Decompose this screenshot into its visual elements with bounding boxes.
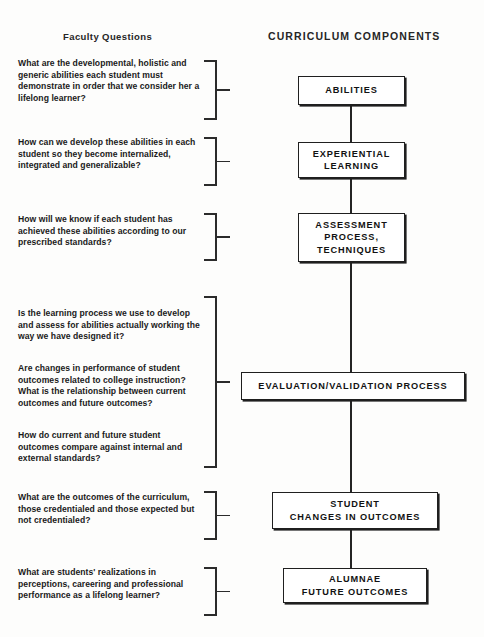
question-text: What are students' realizations in perce… bbox=[18, 567, 200, 602]
bracket-alumnae bbox=[203, 567, 217, 616]
bracket-bottom-arm bbox=[204, 538, 217, 540]
question-text: What are the outcomes of the curriculum,… bbox=[18, 492, 200, 527]
connector-student-changes-to-alumnae bbox=[350, 528, 352, 569]
faculty-questions-heading: Faculty Questions bbox=[63, 31, 152, 42]
component-label: ABILITIES bbox=[325, 84, 378, 96]
component-label: EVALUATION/VALIDATION PROCESS bbox=[258, 380, 447, 392]
question-text: How can we develop these abilities in ea… bbox=[18, 137, 200, 172]
bracket-tick bbox=[217, 161, 230, 163]
question-evaluation-standards: How do current and future student outcom… bbox=[18, 430, 200, 465]
question-text: How do current and future student outcom… bbox=[18, 430, 200, 465]
question-experiential: How can we develop these abilities in ea… bbox=[18, 137, 200, 172]
bracket-tick bbox=[217, 381, 230, 383]
bracket-assessment bbox=[203, 213, 217, 261]
bracket-student-changes bbox=[203, 491, 217, 540]
bracket-tick bbox=[217, 89, 230, 91]
curriculum-components-heading: CURRICULUM COMPONENTS bbox=[268, 30, 440, 42]
bracket-bottom-arm bbox=[204, 259, 217, 261]
bracket-bottom-arm bbox=[204, 466, 217, 468]
connector-assessment-to-evaluation bbox=[350, 261, 352, 373]
question-text: What are the developmental, holistic and… bbox=[18, 58, 200, 104]
component-label: STUDENT CHANGES IN OUTCOMES bbox=[290, 498, 420, 523]
bracket-bottom-arm bbox=[204, 118, 217, 120]
bracket-bottom-arm bbox=[204, 184, 217, 186]
question-text: How will we know if each student has ach… bbox=[18, 214, 200, 249]
bracket-evaluation bbox=[203, 296, 217, 468]
component-label: ASSESSMENT PROCESS, TECHNIQUES bbox=[315, 219, 387, 256]
question-evaluation-learning-process: Is the learning process we use to develo… bbox=[18, 308, 200, 343]
component-box-experiential-learning[interactable]: EXPERIENTIAL LEARNING bbox=[298, 142, 405, 178]
question-alumnae: What are students' realizations in perce… bbox=[18, 567, 200, 602]
bracket-abilities bbox=[203, 60, 217, 120]
component-label: ALUMNAE FUTURE OUTCOMES bbox=[302, 573, 408, 598]
question-text: Are changes in performance of student ou… bbox=[18, 363, 200, 409]
component-box-alumnae-future-outcomes[interactable]: ALUMNAE FUTURE OUTCOMES bbox=[283, 568, 427, 603]
bracket-experiential bbox=[203, 137, 217, 186]
bracket-tick bbox=[217, 236, 230, 238]
connector-abilities-to-experiential bbox=[350, 104, 352, 143]
question-abilities: What are the developmental, holistic and… bbox=[18, 58, 200, 104]
bracket-bottom-arm bbox=[204, 614, 217, 616]
connector-evaluation-to-student-changes bbox=[350, 399, 352, 493]
question-assessment: How will we know if each student has ach… bbox=[18, 214, 200, 249]
component-box-evaluation-validation-process[interactable]: EVALUATION/VALIDATION PROCESS bbox=[241, 372, 465, 400]
question-evaluation-performance-changes: Are changes in performance of student ou… bbox=[18, 363, 200, 409]
component-label: EXPERIENTIAL LEARNING bbox=[313, 148, 391, 173]
connector-experiential-to-assessment bbox=[350, 177, 352, 214]
component-box-assessment-process[interactable]: ASSESSMENT PROCESS, TECHNIQUES bbox=[298, 213, 405, 262]
question-student-changes: What are the outcomes of the curriculum,… bbox=[18, 492, 200, 527]
component-box-abilities[interactable]: ABILITIES bbox=[298, 76, 405, 105]
diagram-canvas: Faculty Questions CURRICULUM COMPONENTS … bbox=[0, 0, 484, 637]
component-box-student-changes-in-outcomes[interactable]: STUDENT CHANGES IN OUTCOMES bbox=[272, 492, 438, 529]
bracket-tick bbox=[217, 591, 230, 593]
bracket-tick bbox=[217, 515, 230, 517]
question-text: Is the learning process we use to develo… bbox=[18, 308, 200, 343]
